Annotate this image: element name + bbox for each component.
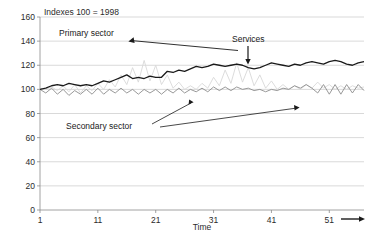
x-axis-tick-label: 41 [267,215,277,225]
y-axis-tick-label: 0 [30,205,35,215]
chart-background [0,0,382,244]
y-axis-tick-label: 100 [21,84,35,94]
y-axis-tick-label: 120 [21,60,35,70]
y-axis-tick-label: 40 [26,157,36,167]
y-axis-tick-label: 80 [26,109,36,119]
x-axis-tick-label: 1 [38,215,43,225]
x-axis-tick-label: 21 [151,215,161,225]
line-chart: 020406080100120140160 11121314151 Indexe… [0,0,382,244]
annotation-primary-sector-label: Primary sector [59,28,114,38]
chart-title: Indexes 100 = 1998 [44,7,119,17]
annotation-services-label: Services [232,34,265,44]
y-axis-tick-label: 160 [21,12,35,22]
x-axis-tick-label: 11 [93,215,102,225]
annotation-secondary-sector-label: Secondary sector [66,121,132,131]
y-axis-tick-label: 20 [26,181,36,191]
x-axis-title: Time [193,222,212,232]
x-axis-tick-label: 51 [325,215,335,225]
y-axis-tick-label: 140 [21,36,35,46]
y-axis-tick-label: 60 [26,133,36,143]
